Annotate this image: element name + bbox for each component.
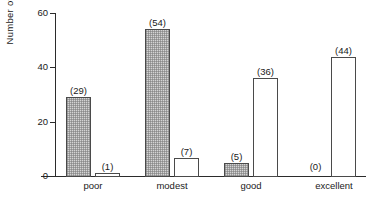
bar-value-modest-shaded: (54)	[137, 17, 178, 28]
bar-good-shaded[interactable]	[224, 163, 249, 177]
bar-excellent-open[interactable]	[331, 57, 356, 177]
bar-value-good-open: (36)	[245, 66, 286, 77]
category-label-excellent: excellent	[307, 180, 361, 192]
category-label-modest: modest	[151, 180, 193, 192]
category-label-good: good	[230, 180, 272, 192]
bar-value-poor-shaded: (29)	[58, 85, 99, 96]
bar-value-excellent-shaded: (0)	[295, 161, 336, 172]
bar-modest-open[interactable]	[174, 158, 199, 177]
bar-poor-open[interactable]	[95, 173, 120, 177]
bar-value-modest-open: (7)	[166, 146, 207, 157]
bar-value-excellent-open: (44)	[323, 45, 364, 56]
category-label-poor: poor	[72, 180, 114, 192]
bar-chart-figure: Number of pat. 60 40 20 0 (29) (1) poor …	[0, 0, 378, 201]
plot-area: (29) (1) poor (54) (7) modest (5) (36) g…	[0, 0, 378, 201]
bar-value-good-shaded: (5)	[216, 151, 257, 162]
bar-good-open[interactable]	[253, 78, 278, 177]
bar-value-poor-open: (1)	[87, 161, 128, 172]
